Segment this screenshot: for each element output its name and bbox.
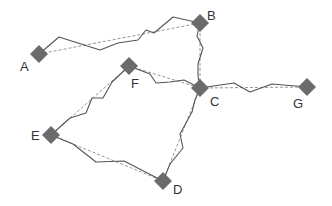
- edge-b-c: [197, 23, 203, 88]
- node-label-d: D: [173, 182, 182, 197]
- network-diagram: ABCDEFG: [0, 0, 332, 206]
- edges-layer: [39, 17, 307, 181]
- edge-f-c: [129, 66, 200, 88]
- node-label-f: F: [131, 76, 139, 91]
- edge-e-f: [51, 66, 129, 135]
- edge-e-d: [51, 135, 163, 181]
- node-label-b: B: [207, 8, 216, 23]
- edge-route-path: [39, 17, 200, 54]
- labels-layer: ABCDEFG: [20, 8, 303, 197]
- node-label-e: E: [31, 128, 40, 143]
- node-label-a: A: [20, 59, 29, 74]
- edge-a-b: [39, 17, 200, 54]
- node-d-diamond-icon: [154, 172, 172, 190]
- edge-c-d: [163, 88, 200, 181]
- edge-direct-line: [200, 87, 307, 88]
- nodes-layer: [30, 14, 316, 190]
- node-label-g: G: [293, 96, 303, 111]
- edge-direct-line: [129, 66, 200, 88]
- node-c-diamond-icon: [191, 79, 209, 97]
- node-label-c: C: [210, 94, 219, 109]
- node-a-diamond-icon: [30, 45, 48, 63]
- node-g-diamond-icon: [298, 78, 316, 96]
- edge-c-g: [200, 83, 307, 92]
